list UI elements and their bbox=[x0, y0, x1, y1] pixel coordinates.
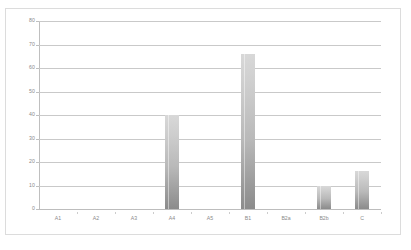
x-axis-tick-label-B1: B1 bbox=[245, 216, 251, 221]
gridline bbox=[39, 68, 381, 69]
y-axis-tick-mark bbox=[36, 92, 39, 93]
x-axis-tick-mark bbox=[191, 212, 192, 214]
y-axis-tick-mark bbox=[36, 186, 39, 187]
y-axis-tick-mark bbox=[36, 162, 39, 163]
bar-highlight bbox=[244, 54, 246, 209]
x-axis-tick-mark bbox=[77, 212, 78, 214]
bar-A4 bbox=[165, 115, 179, 209]
x-axis-tick-mark bbox=[115, 212, 116, 214]
y-axis-tick-label: 10 bbox=[29, 183, 35, 188]
bar-B1 bbox=[241, 54, 255, 209]
x-axis-tick-mark bbox=[153, 212, 154, 214]
x-axis-tick-label-A2: A2 bbox=[93, 216, 99, 221]
y-axis-tick-label: 60 bbox=[29, 65, 35, 70]
y-axis-tick-mark bbox=[36, 21, 39, 22]
plot-area bbox=[39, 21, 381, 209]
y-axis-tick-mark bbox=[36, 45, 39, 46]
bar-highlight bbox=[168, 115, 170, 209]
y-axis-tick-label: 80 bbox=[29, 18, 35, 23]
x-axis-tick-mark bbox=[229, 212, 230, 214]
x-axis-tick-label-B2a: B2a bbox=[281, 216, 290, 221]
gridline bbox=[39, 139, 381, 140]
gridline bbox=[39, 115, 381, 116]
x-axis-tick-label-B2b: B2b bbox=[319, 216, 328, 221]
y-axis-tick-label: 50 bbox=[29, 89, 35, 94]
x-axis-tick-label-A1: A1 bbox=[55, 216, 61, 221]
x-axis-tick-mark bbox=[267, 212, 268, 214]
gridline bbox=[39, 209, 381, 210]
chart-frame: 01020304050607080 A1A2A3A4A5B1B2aB2bC bbox=[5, 8, 401, 235]
y-axis-tick-label: 0 bbox=[32, 206, 35, 211]
x-axis-tick-mark bbox=[305, 212, 306, 214]
x-axis-tick-mark bbox=[343, 212, 344, 214]
y-axis-tick-mark bbox=[36, 139, 39, 140]
gridline bbox=[39, 21, 381, 22]
bar-C bbox=[355, 171, 369, 209]
x-axis-tick-label-A3: A3 bbox=[131, 216, 137, 221]
x-axis-tick-label-A4: A4 bbox=[169, 216, 175, 221]
y-axis-tick-label: 70 bbox=[29, 42, 35, 47]
y-axis-tick-mark bbox=[36, 209, 39, 210]
bar-B2b bbox=[317, 186, 331, 210]
y-axis-tick-label: 20 bbox=[29, 159, 35, 164]
gridline bbox=[39, 162, 381, 163]
x-axis-tick-label-A5: A5 bbox=[207, 216, 213, 221]
y-axis-tick-label: 40 bbox=[29, 112, 35, 117]
x-axis-tick-mark bbox=[381, 212, 382, 214]
x-axis-labels: A1A2A3A4A5B1B2aB2bC bbox=[39, 212, 381, 226]
y-axis-tick-mark bbox=[36, 115, 39, 116]
gridline bbox=[39, 92, 381, 93]
y-axis-tick-label: 30 bbox=[29, 136, 35, 141]
x-axis-tick-label-C: C bbox=[360, 216, 364, 221]
bar-highlight bbox=[358, 171, 360, 209]
chart-plot-wrapper: 01020304050607080 A1A2A3A4A5B1B2aB2bC bbox=[6, 9, 400, 234]
bar-highlight bbox=[320, 186, 322, 210]
gridline bbox=[39, 45, 381, 46]
y-axis-tick-mark bbox=[36, 68, 39, 69]
y-axis-labels: 01020304050607080 bbox=[6, 21, 35, 209]
